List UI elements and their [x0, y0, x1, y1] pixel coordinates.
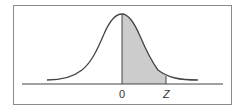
axis-label-zero: 0 — [119, 89, 125, 100]
axis-label-z: Z — [163, 89, 170, 100]
shaded-area — [122, 14, 166, 84]
